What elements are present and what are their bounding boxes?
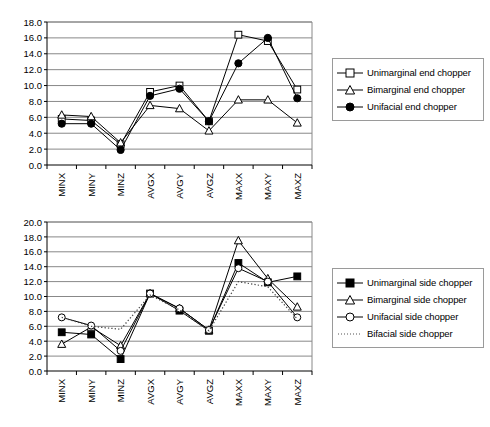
y-axis-tick-label: 18.0 [24, 232, 43, 243]
x-axis-tick-label: MINZ [115, 379, 126, 402]
x-axis-tick-label: MAXZ [292, 379, 303, 406]
open-square-marker-icon [337, 66, 363, 80]
filled-square-marker-icon [337, 276, 363, 290]
x-axis-tick-label: MAXX [233, 378, 244, 406]
legend-label: Unimarginal side chopper [363, 277, 472, 288]
legend-item-unifacial-side-chopper[interactable]: Unifacial side chopper [337, 308, 477, 325]
y-axis-tick-label: 10.0 [24, 80, 43, 91]
x-axis-tick-label: MAXY [262, 378, 273, 406]
figure-root: 0.02.04.06.08.010.012.014.016.018.0MINXM… [0, 0, 490, 427]
y-axis-tick-label: 18.0 [24, 17, 43, 28]
open-circle-marker-icon [337, 310, 363, 324]
x-axis-tick-label: MINZ [115, 173, 126, 196]
filled-circle-marker-icon [337, 100, 363, 114]
y-axis-tick-label: 8.0 [29, 96, 42, 107]
y-axis-tick-label: 6.0 [29, 112, 42, 123]
y-axis-tick-label: 8.0 [29, 306, 42, 317]
x-axis-tick-label: MAXX [233, 172, 244, 200]
y-axis-tick-label: 2.0 [29, 351, 42, 362]
dotted-line-marker-icon [337, 327, 363, 341]
legend-item-bimarginal-end-chopper[interactable]: Bimarginal end chopper [337, 81, 477, 98]
legend-label: Bimarginal side chopper [363, 294, 467, 305]
y-axis-tick-label: 14.0 [24, 48, 43, 59]
y-axis-tick-label: 10.0 [24, 291, 43, 302]
y-axis-tick-label: 16.0 [24, 32, 43, 43]
series-unifacial-end-chopper [58, 34, 301, 153]
legend-label: Bifacial side chopper [363, 328, 453, 339]
x-axis-tick-label: MINX [56, 172, 67, 196]
x-axis-tick-label: MINY [86, 378, 97, 402]
legend-label: Unifacial side chopper [363, 311, 458, 322]
end-chopper-chart: 0.02.04.06.08.010.012.014.016.018.0MINXM… [0, 0, 330, 215]
x-axis-tick-label: MINY [86, 172, 97, 196]
y-axis-tick-label: 14.0 [24, 261, 43, 272]
legend-item-bifacial-side-chopper[interactable]: Bifacial side chopper [337, 325, 477, 342]
y-axis-tick-label: 0.0 [29, 366, 42, 377]
y-axis-tick-label: 16.0 [24, 246, 43, 257]
side-chopper-plot: 0.02.04.06.08.010.012.014.016.018.020.0M… [0, 213, 330, 427]
legend-label: Unimarginal end chopper [363, 67, 471, 78]
legend-label: Bimarginal end chopper [363, 84, 465, 95]
x-axis-tick-label: AVGX [145, 378, 156, 404]
x-axis-tick-label: AVGX [145, 172, 156, 198]
y-axis-tick-label: 0.0 [29, 160, 42, 171]
x-axis-tick-label: AVGZ [204, 173, 215, 198]
x-axis-tick-label: AVGZ [204, 379, 215, 404]
y-axis-tick-label: 4.0 [29, 128, 42, 139]
side-chopper-legend: Unimarginal side chopper Bimarginal side… [332, 268, 484, 348]
x-axis-tick-label: MAXZ [292, 173, 303, 200]
legend-item-unimarginal-end-chopper[interactable]: Unimarginal end chopper [337, 64, 477, 81]
x-axis-tick-label: AVGY [174, 378, 185, 404]
x-axis-tick-label: MAXY [262, 172, 273, 200]
open-triangle-marker-icon [337, 293, 363, 307]
legend-item-unifacial-end-chopper[interactable]: Unifacial end chopper [337, 98, 477, 115]
legend-item-unimarginal-side-chopper[interactable]: Unimarginal side chopper [337, 274, 477, 291]
end-chopper-plot: 0.02.04.06.08.010.012.014.016.018.0MINXM… [0, 0, 330, 215]
y-axis-tick-label: 6.0 [29, 321, 42, 332]
y-axis-tick-label: 20.0 [24, 217, 43, 228]
x-axis-tick-label: MINX [56, 378, 67, 402]
open-triangle-marker-icon [337, 83, 363, 97]
legend-label: Unifacial end chopper [363, 101, 457, 112]
y-axis-tick-label: 2.0 [29, 144, 42, 155]
y-axis-tick-label: 12.0 [24, 276, 43, 287]
legend-item-bimarginal-side-chopper[interactable]: Bimarginal side chopper [337, 291, 477, 308]
y-axis-tick-label: 4.0 [29, 336, 42, 347]
side-chopper-chart: 0.02.04.06.08.010.012.014.016.018.020.0M… [0, 213, 330, 427]
end-chopper-legend: Unimarginal end chopper Bimarginal end c… [332, 58, 484, 121]
y-axis-tick-label: 12.0 [24, 64, 43, 75]
x-axis-tick-label: AVGY [174, 172, 185, 198]
